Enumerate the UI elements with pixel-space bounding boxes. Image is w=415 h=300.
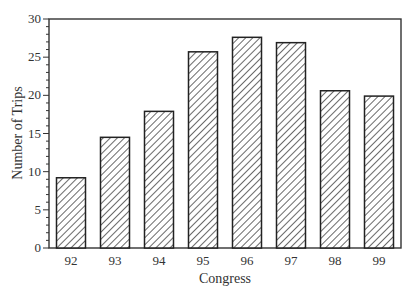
- x-tick-label: 99: [373, 253, 386, 268]
- x-tick-label: 95: [197, 253, 210, 268]
- bar-chart: 051015202530 9293949596979899 Congress N…: [0, 0, 415, 300]
- bar-99: [365, 96, 394, 248]
- x-tick-label: 97: [285, 253, 299, 268]
- x-tick-label: 96: [241, 253, 255, 268]
- bar-93: [101, 137, 130, 248]
- bar-96: [233, 37, 262, 248]
- y-tick-label: 5: [35, 202, 42, 217]
- y-tick-label: 0: [35, 240, 42, 255]
- x-tick-label: 98: [329, 253, 342, 268]
- x-axis-title: Congress: [199, 271, 251, 286]
- y-axis: 051015202530: [28, 11, 49, 255]
- bar-97: [277, 43, 306, 248]
- y-tick-label: 15: [28, 126, 41, 141]
- bar-94: [145, 111, 174, 248]
- x-tick-label: 94: [153, 253, 167, 268]
- bar-95: [189, 52, 218, 248]
- bars: [57, 37, 394, 248]
- x-tick-label: 92: [65, 253, 78, 268]
- y-tick-label: 20: [28, 87, 41, 102]
- y-tick-label: 30: [28, 11, 41, 26]
- y-axis-title: Number of Trips: [10, 86, 25, 179]
- x-axis: 9293949596979899: [65, 253, 386, 268]
- bar-98: [321, 91, 350, 248]
- y-tick-label: 25: [28, 49, 41, 64]
- bar-92: [57, 178, 86, 248]
- y-tick-label: 10: [28, 164, 41, 179]
- x-tick-label: 93: [109, 253, 122, 268]
